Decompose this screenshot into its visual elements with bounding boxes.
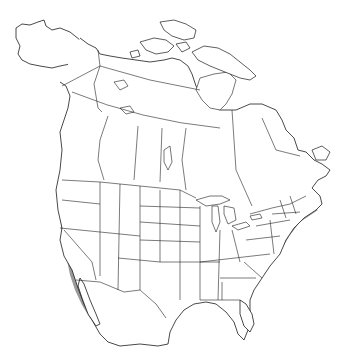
arctic-island-small-1 [176, 42, 190, 52]
arctic-island-victoria [140, 38, 174, 54]
north-america-map [0, 0, 349, 352]
coastline-layer [16, 20, 330, 346]
arctic-island-ellesmere [160, 20, 196, 40]
pacific-coast-outline [56, 38, 330, 346]
arctic-island-small-2 [130, 50, 140, 58]
newfoundland-outline [312, 146, 330, 160]
range-map [0, 0, 349, 352]
